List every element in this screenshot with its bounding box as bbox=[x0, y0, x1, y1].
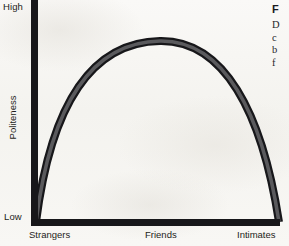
caption-heading: F bbox=[272, 3, 289, 16]
plot-area: High Low Politeness Strangers Friends In… bbox=[0, 0, 289, 246]
caption-line-3: b bbox=[272, 44, 289, 57]
x-tick-intimates: Intimates bbox=[237, 229, 276, 240]
x-tick-friends: Friends bbox=[145, 229, 177, 240]
curve-outline bbox=[36, 41, 279, 222]
politeness-curve-svg bbox=[0, 0, 289, 246]
caption-body: D c b f bbox=[272, 19, 289, 69]
caption-line-2: c bbox=[272, 32, 289, 45]
caption-line-1: D bbox=[272, 19, 289, 32]
caption-line-4: f bbox=[272, 57, 289, 70]
curve-band bbox=[36, 41, 279, 222]
y-axis-low-label: Low bbox=[4, 211, 22, 222]
x-axis-line bbox=[31, 219, 280, 226]
y-axis-line bbox=[31, 0, 38, 226]
y-axis-title: Politeness bbox=[7, 83, 18, 153]
x-tick-strangers: Strangers bbox=[29, 229, 70, 240]
caption-column: F D c b f bbox=[272, 3, 289, 69]
figure-page: High Low Politeness Strangers Friends In… bbox=[0, 0, 289, 246]
y-axis-high-label: High bbox=[3, 1, 23, 12]
